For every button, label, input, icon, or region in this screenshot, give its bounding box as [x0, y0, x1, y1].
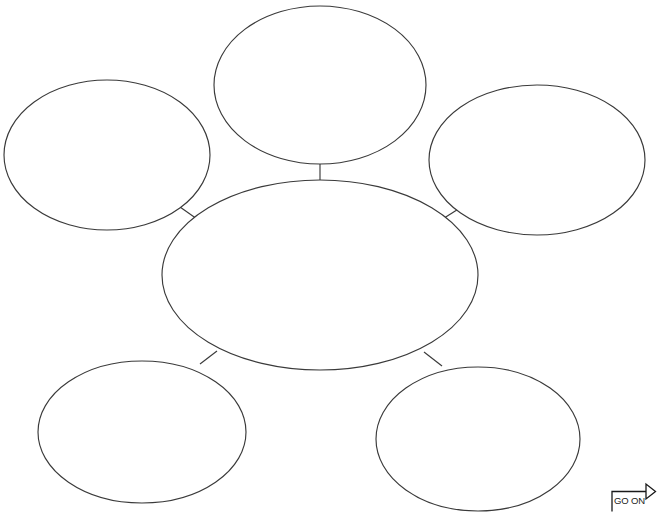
bubble-bottom-right[interactable]: [376, 367, 580, 511]
bubble-top[interactable]: [214, 6, 426, 164]
connector-center-to-bottom-right: [424, 352, 442, 366]
bubble-bottom-left[interactable]: [38, 361, 246, 503]
go-on-label: GO ON: [614, 495, 655, 506]
bubble-center[interactable]: [162, 180, 478, 370]
bubble-left[interactable]: [4, 80, 210, 230]
go-on-marker: GO ON: [610, 481, 657, 512]
center-bubble-group: [162, 180, 478, 370]
bubble-right[interactable]: [429, 85, 645, 235]
graphic-organizer: [0, 0, 657, 512]
worksheet-page: GO ON: [0, 0, 657, 512]
connector-center-to-bottom-left: [200, 351, 217, 364]
